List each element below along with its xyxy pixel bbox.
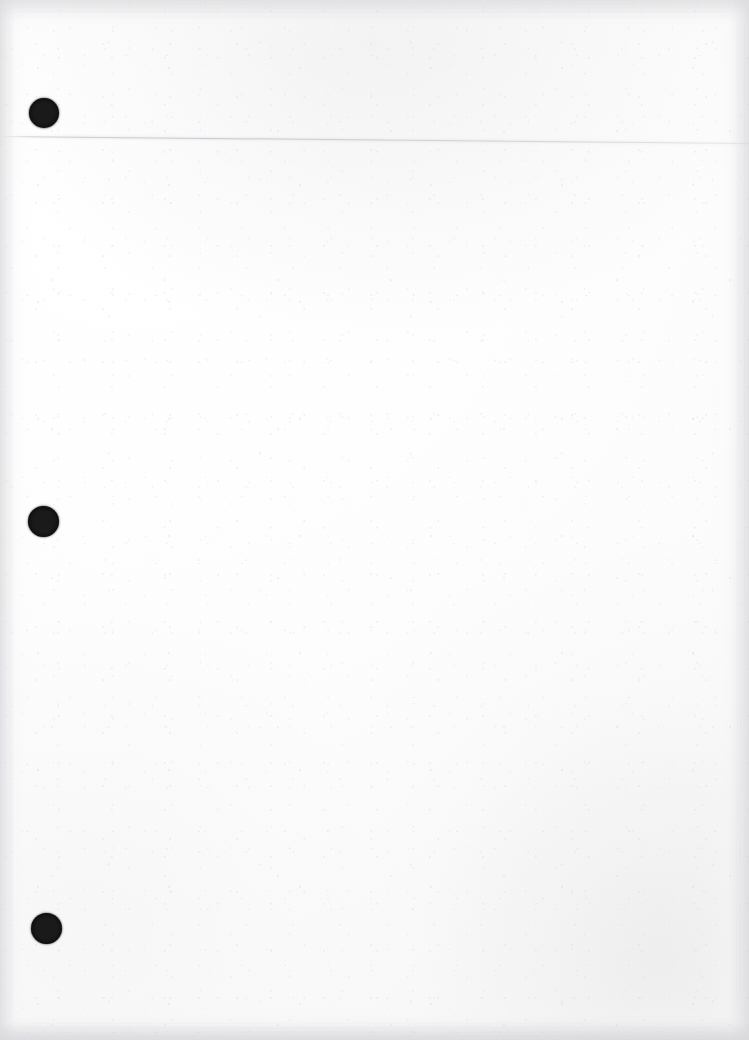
paper-background	[0, 0, 749, 1040]
punch-hole-top	[29, 98, 59, 128]
punch-hole-bottom	[31, 913, 62, 944]
punch-hole-middle	[28, 506, 59, 537]
scanned-document-page	[0, 0, 749, 1040]
